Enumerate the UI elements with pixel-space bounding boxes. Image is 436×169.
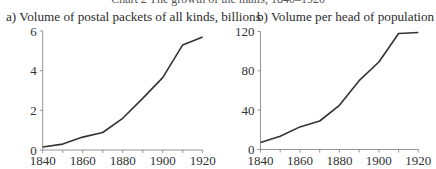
charts-canvas: 024618401860188019001920 040801201840186… [0, 0, 436, 169]
x-tick-label: 1880 [326, 153, 352, 168]
y-tick-label: 80 [242, 63, 255, 78]
y-tick-label: 40 [242, 103, 255, 118]
x-tick-label: 1900 [150, 153, 176, 168]
x-tick-label: 1860 [287, 153, 313, 168]
x-tick-label: 1840 [248, 153, 274, 168]
chart-b-volume-per-head: 0408012018401860188019001920 [235, 24, 431, 168]
x-tick-label: 1860 [70, 153, 96, 168]
chart-a-postal-volume: 024618401860188019001920 [30, 24, 216, 169]
x-tick-label: 1920 [405, 153, 431, 168]
x-tick-label: 1900 [366, 153, 392, 168]
series-line-a [43, 37, 203, 147]
x-tick-label: 1880 [110, 153, 136, 168]
series-line-b [261, 33, 419, 143]
y-tick-label: 120 [235, 24, 255, 39]
y-tick-label: 2 [30, 103, 37, 118]
x-tick-label: 1920 [190, 153, 216, 168]
y-tick-label: 6 [30, 24, 37, 39]
x-tick-label: 1840 [30, 153, 56, 168]
y-tick-label: 4 [30, 63, 37, 78]
